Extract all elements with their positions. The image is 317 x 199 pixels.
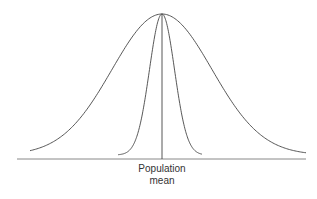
narrow-curve xyxy=(118,14,202,155)
mean-label: Population mean xyxy=(122,163,202,187)
mean-label-line1: Population xyxy=(122,163,202,175)
mean-label-line2: mean xyxy=(122,175,202,187)
wide-curve xyxy=(30,14,306,153)
distribution-chart: Population mean xyxy=(0,0,317,199)
